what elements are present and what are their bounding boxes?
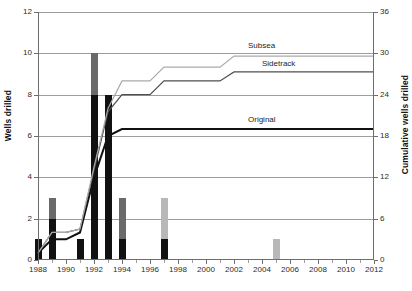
y2-tick-label: 12 <box>380 173 406 181</box>
y-tick-label: 12 <box>6 8 32 16</box>
chart-container: Wells drilled Cumulative wells drilled S… <box>0 0 412 291</box>
x-tick <box>38 260 39 264</box>
y-tick-label: 6 <box>6 132 32 140</box>
x-tick-minor <box>192 260 193 263</box>
plot-area: SubseaSidetrackOriginal 024681012 061218… <box>38 12 374 260</box>
x-tick-minor <box>164 260 165 263</box>
x-tick-minor <box>276 260 277 263</box>
x-tick-label: 2012 <box>359 266 389 274</box>
x-tick <box>94 260 95 264</box>
y-axis-left-line <box>38 12 39 260</box>
x-tick <box>150 260 151 264</box>
y-tick-label: 4 <box>6 173 32 181</box>
x-tick <box>206 260 207 264</box>
y2-tick <box>374 53 378 54</box>
y2-tick <box>374 177 378 178</box>
x-tick <box>66 260 67 264</box>
y-tick <box>34 53 38 54</box>
x-tick-minor <box>80 260 81 263</box>
cumulative-line-sidetrack <box>38 72 374 253</box>
y-tick <box>34 95 38 96</box>
x-tick-label: 2010 <box>331 266 361 274</box>
x-tick <box>122 260 123 264</box>
x-tick-minor <box>136 260 137 263</box>
series-label-sidetrack: Sidetrack <box>262 59 295 68</box>
x-tick-label: 1998 <box>163 266 193 274</box>
x-tick-minor <box>52 260 53 263</box>
cumulative-line-group <box>38 12 374 260</box>
y-tick-label: 2 <box>6 215 32 223</box>
y2-tick <box>374 136 378 137</box>
x-tick-label: 1988 <box>23 266 53 274</box>
y2-tick-label: 18 <box>380 132 406 140</box>
y2-tick <box>374 12 378 13</box>
series-label-original: Original <box>248 115 276 124</box>
x-tick-minor <box>332 260 333 263</box>
x-tick-label: 1990 <box>51 266 81 274</box>
y-tick <box>34 219 38 220</box>
x-tick <box>290 260 291 264</box>
x-tick-minor <box>304 260 305 263</box>
y2-tick-label: 24 <box>380 91 406 99</box>
x-tick-label: 2008 <box>303 266 333 274</box>
y2-tick-label: 0 <box>380 256 406 264</box>
y2-tick <box>374 219 378 220</box>
x-tick-minor <box>248 260 249 263</box>
x-tick <box>318 260 319 264</box>
x-tick <box>374 260 375 264</box>
y-tick-label: 8 <box>6 91 32 99</box>
x-tick <box>234 260 235 264</box>
series-label-subsea: Subsea <box>248 41 275 50</box>
x-tick-minor <box>108 260 109 263</box>
y2-tick-label: 36 <box>380 8 406 16</box>
x-tick-label: 1994 <box>107 266 137 274</box>
y2-tick-label: 30 <box>380 49 406 57</box>
x-tick-label: 2006 <box>275 266 305 274</box>
y-tick-label: 0 <box>6 256 32 264</box>
x-tick <box>262 260 263 264</box>
x-tick <box>178 260 179 264</box>
y-tick <box>34 177 38 178</box>
x-tick <box>346 260 347 264</box>
x-tick-minor <box>360 260 361 263</box>
y2-tick <box>374 95 378 96</box>
x-tick-label: 1992 <box>79 266 109 274</box>
x-tick-label: 2004 <box>247 266 277 274</box>
x-tick-label: 2002 <box>219 266 249 274</box>
x-tick-label: 1996 <box>135 266 165 274</box>
y-tick <box>34 12 38 13</box>
x-tick-minor <box>220 260 221 263</box>
x-tick-label: 2000 <box>191 266 221 274</box>
y2-tick-label: 6 <box>380 215 406 223</box>
cumulative-line-subsea <box>38 56 374 253</box>
y-tick <box>34 136 38 137</box>
y-tick-label: 10 <box>6 49 32 57</box>
